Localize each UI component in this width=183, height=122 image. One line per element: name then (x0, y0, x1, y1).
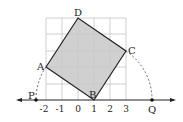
square-number-line-diagram: -2 -1 0 1 2 3 D C A B P Q (0, 0, 183, 122)
tick-label: 1 (91, 104, 97, 114)
point-q (150, 98, 154, 102)
tick-labels: -2 -1 0 1 2 3 (40, 104, 130, 114)
label-c: C (128, 45, 136, 56)
tick-label: -1 (56, 104, 65, 114)
arrow-left-icon (16, 98, 22, 102)
label-q: Q (148, 104, 156, 115)
tick-label: -2 (40, 104, 49, 114)
arc-c-to-q (126, 51, 152, 100)
arrow-right-icon (170, 98, 176, 102)
label-p: P (28, 90, 35, 101)
tick-label: 0 (75, 104, 81, 114)
tick-label: 3 (123, 104, 129, 114)
point-p (34, 98, 38, 102)
tick-label: 2 (107, 104, 113, 114)
label-a: A (36, 61, 45, 72)
label-d: D (74, 7, 82, 18)
square-abcd (46, 18, 126, 100)
label-b: B (89, 89, 96, 100)
diagram-canvas: -2 -1 0 1 2 3 D C A B P Q (0, 0, 183, 122)
